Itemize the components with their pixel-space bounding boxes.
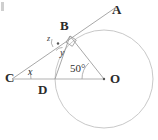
center-dot-O [103,78,105,80]
point-label-D: D [38,83,47,96]
angle-label-50-degrees: 50° [70,63,85,74]
intersection-dot [57,42,59,44]
point-label-O: O [110,72,120,85]
angle-label-y: y [60,48,64,58]
point-label-B: B [60,19,69,32]
angle-label-z: z [47,35,50,43]
geometry-diagram: A B C D O x y z 50° [0,0,158,140]
point-label-C: C [5,71,14,84]
angle-arc-z [51,39,53,47]
angle-label-x: x [28,67,32,77]
point-label-A: A [112,3,121,16]
